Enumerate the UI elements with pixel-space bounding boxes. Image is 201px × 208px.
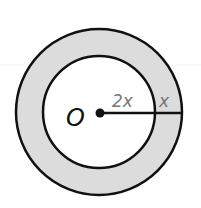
center-label: O [66,104,85,132]
inner-radius-label: 2x [112,91,134,111]
ring-width-label: x [158,91,170,111]
concentric-circles-diagram: O 2x x [0,0,201,208]
center-point [96,109,105,118]
